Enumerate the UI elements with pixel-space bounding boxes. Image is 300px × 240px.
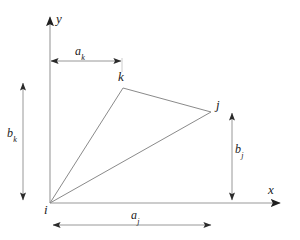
- dimension-label-b-j: bj: [235, 143, 243, 159]
- dimension-label-b-k: bk: [7, 127, 17, 143]
- dimension-label-a-k: ak: [75, 45, 85, 61]
- vertex-label-i: i: [44, 203, 48, 216]
- edge-i-k: [50, 88, 123, 203]
- edge-k-j: [123, 88, 211, 112]
- x-axis-label: x: [268, 183, 274, 196]
- dimension-subscript-a-k: k: [81, 53, 85, 62]
- y-axis-label: y: [56, 12, 62, 25]
- vertex-label-k: k: [118, 70, 124, 83]
- vertex-label-j: j: [216, 98, 220, 111]
- dimension-label-a-j: aj: [131, 209, 139, 225]
- dimension-subscript-b-k: k: [13, 135, 17, 144]
- edge-i-j: [50, 112, 211, 203]
- figure-canvas: y x i k j ak bk aj bj: [0, 0, 300, 240]
